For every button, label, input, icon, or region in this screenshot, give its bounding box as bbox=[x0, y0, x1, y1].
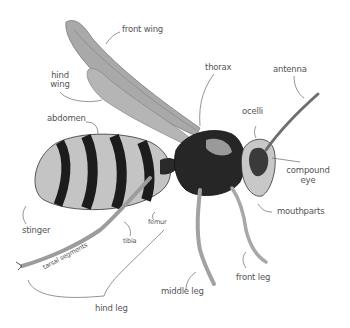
label-front-wing: front wing bbox=[122, 25, 163, 34]
wasp-anatomy-diagram: front wing hind wing abdomen thorax ante… bbox=[0, 0, 350, 328]
label-ocelli: ocelli bbox=[242, 107, 263, 116]
front-leg-shape bbox=[232, 188, 266, 262]
label-compound-eye-line2: eye bbox=[285, 176, 331, 185]
label-abdomen: abdomen bbox=[47, 114, 86, 123]
label-femur: femur bbox=[148, 219, 166, 226]
label-front-leg: front leg bbox=[236, 273, 270, 282]
label-antenna: antenna bbox=[273, 65, 307, 74]
label-hind-leg: hind leg bbox=[95, 304, 128, 313]
wasp-illustration bbox=[0, 0, 350, 328]
front-wing-shape bbox=[66, 21, 200, 136]
antenna-shape bbox=[266, 94, 318, 150]
label-stinger: stinger bbox=[22, 226, 50, 235]
label-hind-wing-line2: wing bbox=[48, 80, 72, 89]
label-thorax: thorax bbox=[205, 63, 231, 72]
label-middle-leg: middle leg bbox=[161, 287, 204, 296]
hind-wing-shape bbox=[87, 68, 190, 144]
label-tibia: tibia bbox=[123, 238, 136, 245]
label-compound-eye-line1: compound bbox=[285, 166, 331, 175]
label-mouthparts: mouthparts bbox=[277, 207, 324, 216]
middle-leg-shape bbox=[198, 190, 214, 284]
